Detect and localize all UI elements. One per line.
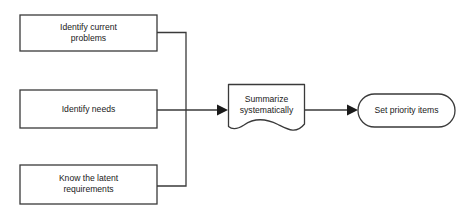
node-identify-current-problems[interactable]: Identify current problems (20, 15, 157, 51)
node-know-the-latent-requirements[interactable]: Know the latent requirements (20, 165, 157, 204)
node-summarize-systematically[interactable]: Summarize systematically (229, 85, 305, 131)
flowchart-canvas: Identify current problems Identify needs… (0, 0, 470, 219)
node-label-summarize-systematically-line2: systematically (240, 105, 294, 115)
node-set-priority-items[interactable]: Set priority items (358, 94, 455, 127)
edge-requirements-to-summarize (157, 110, 186, 186)
node-label-summarize-systematically-line1: Summarize (245, 94, 289, 104)
node-label-know-the-latent-requirements-line2: requirements (63, 184, 113, 194)
arrowhead-into-priority (347, 105, 358, 116)
node-label-identify-needs-line1: Identify needs (62, 104, 116, 114)
node-label-identify-current-problems-line1: Identify current (60, 22, 117, 32)
node-identify-needs[interactable]: Identify needs (20, 90, 157, 128)
arrowhead-into-summarize (217, 105, 228, 116)
node-label-know-the-latent-requirements-line1: Know the latent (59, 173, 119, 183)
edge-problems-to-summarize (157, 33, 186, 111)
flowchart-diagram: Identify current problems Identify needs… (0, 0, 470, 219)
node-label-identify-current-problems-line2: problems (71, 33, 106, 43)
node-label-set-priority-items-line1: Set priority items (375, 105, 439, 115)
